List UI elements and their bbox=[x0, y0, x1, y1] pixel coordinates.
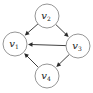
edge-v2-v1 bbox=[25, 24, 38, 36]
edges bbox=[24, 24, 69, 68]
node-v3: v3 bbox=[66, 34, 90, 58]
node-v1: v1 bbox=[3, 32, 27, 56]
edge-v3-v1 bbox=[28, 42, 66, 46]
edge-line bbox=[31, 45, 66, 46]
node-v2: v2 bbox=[35, 4, 59, 28]
arrow-head-icon bbox=[28, 42, 33, 46]
edge-v2-v3 bbox=[56, 24, 69, 37]
edge-line bbox=[58, 54, 69, 65]
edge-line bbox=[26, 55, 38, 67]
nodes: v1 v2 v3 v4 bbox=[3, 4, 90, 88]
directed-graph: v1 v2 v3 v4 bbox=[0, 0, 93, 93]
edge-v3-v4 bbox=[56, 54, 69, 67]
edge-line bbox=[27, 24, 38, 34]
node-v4: v4 bbox=[35, 64, 59, 88]
edge-line bbox=[56, 24, 67, 35]
edge-v4-v1 bbox=[24, 53, 38, 67]
